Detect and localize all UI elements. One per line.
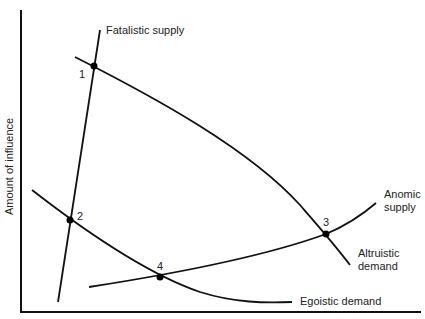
anomic-supply-curve <box>89 203 376 287</box>
equilibrium-point-1 <box>91 63 98 70</box>
altruistic-demand-label-line1: Altruistic <box>358 247 400 259</box>
equilibrium-point-3 <box>323 231 330 238</box>
fatalistic-supply-label: Fatalistic supply <box>106 24 185 36</box>
point-2-label: 2 <box>77 210 83 222</box>
anomic-supply-label-line2: supply <box>384 201 416 213</box>
equilibrium-point-2 <box>67 217 74 224</box>
point-4-label: 4 <box>157 260 163 272</box>
point-3-label: 3 <box>323 216 329 228</box>
egoistic-demand-label: Egoistic demand <box>300 295 381 307</box>
y-axis-label: Amount of influence <box>3 118 15 215</box>
diagram-canvas: Amount of influence Fatalistic supply Al… <box>0 0 425 319</box>
altruistic-demand-curve <box>75 57 350 265</box>
altruistic-demand-label-line2: demand <box>358 260 398 272</box>
equilibrium-point-4 <box>157 274 164 281</box>
egoistic-demand-curve <box>32 190 292 302</box>
point-1-label: 1 <box>79 68 85 80</box>
anomic-supply-label-line1: Anomic <box>384 188 421 200</box>
